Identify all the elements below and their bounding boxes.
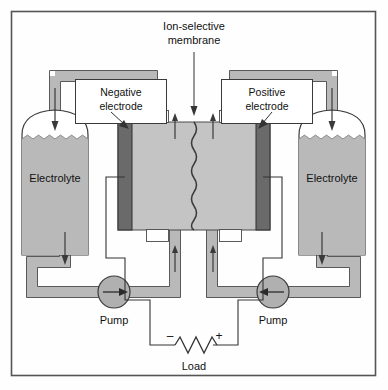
right-tank: Electrolyte [299,110,365,255]
right-tank-label: Electrolyte [306,172,357,184]
membrane-label-line2: membrane [168,34,221,46]
right-pump[interactable]: Pump [257,276,289,326]
port-bottom-left [147,230,169,242]
left-tank-liquid [22,139,88,255]
right-pump-label: Pump [259,314,288,326]
membrane-label-line1: Ion-selective [163,20,225,32]
load-label: Load [182,360,206,372]
positive-electrode-label-line1: Positive [249,86,286,98]
positive-electrode-slab [256,122,270,230]
load-positive-terminal: + [215,329,222,343]
negative-electrode-callout: Negative electrode [76,80,167,130]
positive-electrode-callout: Positive electrode [222,80,313,130]
port-bottom-right [220,230,242,242]
cell-body [118,122,270,230]
electrochemical-cell [118,122,270,230]
positive-electrode-label-line2: electrode [245,100,288,112]
negative-electrode-label-line1: Negative [100,86,142,98]
left-pump-label: Pump [100,314,129,326]
left-tank-label: Electrolyte [29,172,80,184]
left-tank: Electrolyte [22,110,88,255]
load-negative-terminal: – [167,329,174,343]
diagram-canvas: Electrolyte Electrolyte Pump Pump [0,0,388,390]
flow-battery-diagram: Electrolyte Electrolyte Pump Pump [0,0,388,390]
negative-electrode-slab [118,122,132,230]
right-tank-liquid [299,139,365,255]
negative-electrode-label-line2: electrode [99,100,142,112]
